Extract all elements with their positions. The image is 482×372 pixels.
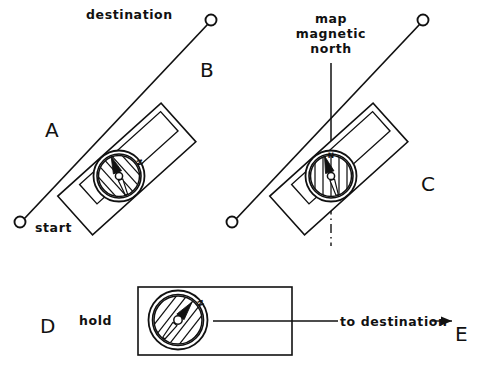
panel-left-group: N destination start A B (15, 7, 217, 235)
start-label-left: start (35, 220, 72, 235)
panel-label-e: E (455, 322, 468, 346)
destination-node (206, 15, 217, 26)
compass-pivot-bottom (174, 316, 182, 324)
figure-canvas: N destination start A B (0, 0, 482, 372)
destination-label-left: destination (86, 7, 173, 22)
map-magnetic-north-line3: north (310, 41, 352, 56)
panel-label-b: B (200, 58, 214, 82)
panel-right-group: N map magnetic north C (227, 11, 436, 246)
dial-north-letter-right: N (328, 151, 334, 160)
hold-label: hold (79, 313, 112, 328)
panel-label-c: C (421, 172, 435, 196)
destination-node-right (418, 15, 429, 26)
to-destination-label: to destination (340, 314, 448, 329)
panel-label-d: D (40, 314, 56, 338)
start-node-right (227, 217, 238, 228)
compass-pivot-left (115, 172, 122, 179)
map-magnetic-north-line2: magnetic (296, 26, 366, 41)
compass-pivot-right (327, 172, 334, 179)
start-node (15, 217, 26, 228)
compass-navigation-figure: N destination start A B (0, 0, 482, 372)
panel-bottom-group: N D hold to destination E (40, 283, 468, 357)
map-magnetic-north-line1: map (315, 11, 347, 26)
panel-label-a: A (45, 118, 59, 142)
